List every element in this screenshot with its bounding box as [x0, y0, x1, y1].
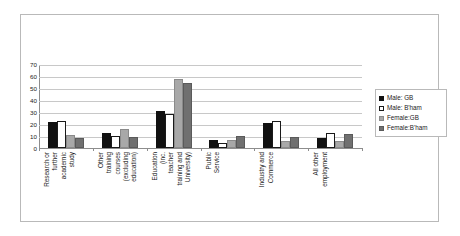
bar	[165, 114, 174, 148]
bar	[75, 138, 84, 148]
bar	[66, 135, 75, 148]
x-tick-mark	[362, 148, 363, 151]
bar-group	[317, 65, 353, 148]
x-category-label-line: Industry and	[258, 152, 265, 187]
chart-canvas: 70 60 50 40 30 20 10 0 Male: GB Male:	[0, 0, 460, 236]
x-category-label-line: University)	[184, 152, 191, 182]
legend-swatch-female-gb	[379, 116, 384, 121]
gridline-20	[39, 125, 362, 126]
x-category-label: Industry andCommerce	[258, 152, 304, 224]
x-category-label-line: (excluding	[122, 152, 129, 181]
bar	[236, 136, 245, 148]
bar	[57, 121, 66, 148]
x-category-label-line: training	[105, 152, 112, 173]
plot-area	[39, 65, 362, 148]
bar	[335, 141, 344, 148]
x-category-label-line: further	[51, 152, 58, 170]
x-category-label-line: Service	[213, 152, 220, 173]
bar	[227, 140, 236, 148]
y-tick-label-70: 70	[30, 62, 37, 68]
bar	[326, 133, 335, 148]
x-category-label-line: employment	[321, 152, 328, 187]
x-category-label-line: Education	[151, 152, 158, 180]
bar	[218, 143, 227, 148]
gridline-40	[39, 101, 362, 102]
bar	[263, 123, 272, 148]
bar	[48, 122, 57, 148]
x-category-label-line: courses	[114, 152, 121, 174]
y-axis-tick-labels: 70 60 50 40 30 20 10 0	[20, 0, 37, 236]
gridline-50	[39, 89, 362, 90]
bar	[272, 121, 281, 148]
y-tick-label-50: 50	[30, 86, 37, 92]
x-category-label: PublicService	[205, 152, 251, 224]
legend-item-male-bham[interactable]: Male: B'ham	[379, 103, 444, 113]
y-tick-label-40: 40	[30, 98, 37, 104]
bar	[290, 137, 299, 148]
bar	[129, 137, 138, 148]
x-category-label-line: Commerce	[267, 152, 274, 183]
bar	[120, 129, 129, 148]
x-category-label-line: teacher	[167, 152, 174, 173]
legend-label-female-bham: Female:B'ham	[387, 125, 427, 132]
bar	[344, 134, 353, 148]
legend-label-male-gb: Male: GB	[387, 95, 413, 102]
legend-item-female-bham[interactable]: Female:B'ham	[379, 123, 444, 133]
x-category-label-line: academic	[60, 152, 67, 179]
bar-group	[48, 65, 84, 148]
y-tick-label-0: 0	[34, 146, 37, 152]
bar	[174, 79, 183, 148]
y-tick-label-60: 60	[30, 74, 37, 80]
y-tick-label-10: 10	[30, 134, 37, 140]
x-tick-mark	[147, 148, 148, 151]
x-category-label-line: Other	[97, 152, 104, 168]
y-tick-label-30: 30	[30, 110, 37, 116]
gridline-30	[39, 113, 362, 114]
x-category-label-line: training and	[176, 152, 183, 185]
x-tick-mark	[39, 148, 40, 151]
bar-group	[209, 65, 245, 148]
legend-swatch-male-bham	[379, 106, 384, 111]
gridline-60	[39, 77, 362, 78]
x-category-label-line: Public	[205, 152, 212, 169]
x-category-label: Othertrainingcourses(excludingeducation)	[97, 152, 143, 224]
x-tick-mark	[201, 148, 202, 151]
gridline-10	[39, 137, 362, 138]
x-category-label: All otheremployment	[312, 152, 358, 224]
gridline-70	[39, 65, 362, 66]
bar	[111, 136, 120, 148]
x-category-label-line: All other	[312, 152, 319, 175]
legend-label-female-gb: Female:GB	[387, 115, 419, 122]
x-category-label-line: education)	[130, 152, 137, 182]
bar	[209, 140, 218, 148]
x-category-label-line: Research or	[43, 152, 50, 187]
y-tick-label-20: 20	[30, 122, 37, 128]
bar	[317, 138, 326, 148]
x-category-label-line: study	[68, 152, 75, 167]
x-tick-mark	[93, 148, 94, 151]
bar	[183, 83, 192, 148]
legend: Male: GB Male: B'ham Female:GB Female:B'…	[375, 89, 447, 137]
x-category-label: Education(inc.teachertraining andUnivers…	[151, 152, 197, 224]
bar	[102, 133, 111, 148]
x-category-label: Research orfurtheracademicstudy	[43, 152, 89, 224]
x-tick-mark	[308, 148, 309, 151]
legend-item-male-gb[interactable]: Male: GB	[379, 93, 444, 103]
legend-item-female-gb[interactable]: Female:GB	[379, 113, 444, 123]
legend-swatch-male-gb	[379, 96, 384, 101]
x-tick-mark	[254, 148, 255, 151]
bar	[281, 141, 290, 148]
legend-swatch-female-bham	[379, 126, 384, 131]
bar	[156, 111, 165, 148]
bar-group	[263, 65, 299, 148]
legend-label-male-bham: Male: B'ham	[387, 105, 422, 112]
x-category-label-line: (inc.	[159, 152, 166, 164]
bar-group	[156, 65, 192, 148]
bar-group	[102, 65, 138, 148]
